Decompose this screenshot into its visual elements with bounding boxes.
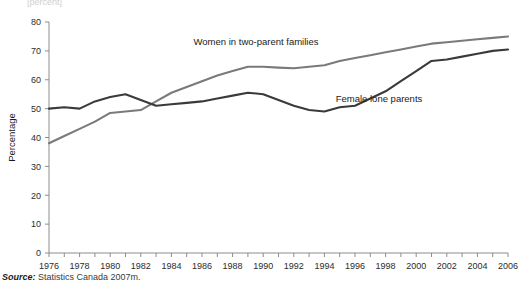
y-axis-title-text: Percentage — [6, 113, 17, 162]
x-tick-label: 1982 — [131, 261, 151, 271]
x-tick-label: 1986 — [192, 261, 212, 271]
data-series-group — [49, 36, 508, 143]
chart-figure: [percent] 01020304050607080 197619781980… — [0, 0, 531, 289]
y-tick-label: 40 — [31, 133, 41, 143]
x-tick-label: 1990 — [253, 261, 273, 271]
y-axis: 01020304050607080 — [31, 17, 49, 258]
x-tick-label: 2002 — [437, 261, 457, 271]
y-tick-label: 50 — [31, 104, 41, 114]
x-tick-label: 1988 — [223, 261, 243, 271]
series-label-1: Women in two-parent families — [194, 36, 319, 47]
x-tick-label: 2006 — [498, 261, 518, 271]
x-tick-label: 1976 — [39, 261, 59, 271]
source-note: Source: Statistics Canada 2007m. — [2, 272, 141, 282]
series-line — [49, 49, 508, 111]
y-tick-label: 10 — [31, 219, 41, 229]
source-text: Statistics Canada 2007m. — [38, 272, 141, 282]
line-chart-canvas: 01020304050607080 1976197819801982198419… — [0, 0, 531, 289]
y-tick-label: 20 — [31, 191, 41, 201]
x-tick-label: 1984 — [161, 261, 181, 271]
series-annotations: Women in two-parent familiesFemale lone … — [194, 36, 423, 104]
source-prefix: Source: — [2, 272, 36, 282]
x-tick-label: 1998 — [376, 261, 396, 271]
x-tick-label: 2004 — [467, 261, 487, 271]
x-tick-label: 1994 — [314, 261, 334, 271]
y-tick-label: 0 — [36, 248, 41, 258]
y-tick-label: 70 — [31, 46, 41, 56]
series-line — [49, 36, 508, 143]
x-axis: 1976197819801982198419861988199019921994… — [39, 253, 518, 271]
y-tick-label: 80 — [31, 17, 41, 27]
x-tick-label: 1980 — [100, 261, 120, 271]
x-tick-label: 1978 — [70, 261, 90, 271]
x-tick-label: 1996 — [345, 261, 365, 271]
y-tick-label: 30 — [31, 162, 41, 172]
x-tick-label: 1992 — [284, 261, 304, 271]
x-tick-label: 2000 — [406, 261, 426, 271]
y-tick-label: 60 — [31, 75, 41, 85]
series-label-2: Female lone parents — [336, 93, 423, 104]
y-axis-title: Percentage — [6, 113, 17, 162]
